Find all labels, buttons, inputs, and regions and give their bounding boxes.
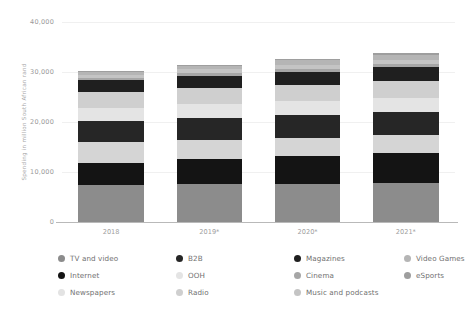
legend-color-dot-icon xyxy=(176,272,183,279)
bar-segment[interactable] xyxy=(78,78,143,81)
bar-segment[interactable] xyxy=(275,65,340,69)
legend-item-label: TV and video xyxy=(70,254,118,263)
bar-segment[interactable] xyxy=(177,159,242,184)
legend-item[interactable]: eSports xyxy=(404,271,471,280)
bar-segment[interactable] xyxy=(373,135,438,153)
bar-segment[interactable] xyxy=(78,71,143,75)
bar-segment[interactable] xyxy=(78,142,143,163)
bar-segment[interactable] xyxy=(78,80,143,92)
legend-color-dot-icon xyxy=(176,255,183,262)
y-axis-tick-label: 10,000 xyxy=(30,168,54,176)
legend-color-dot-icon xyxy=(176,289,183,296)
legend-item-label: Newspapers xyxy=(70,288,115,297)
legend-color-dot-icon xyxy=(58,289,65,296)
bar-segment[interactable] xyxy=(373,67,438,81)
legend-item-label: Internet xyxy=(70,271,99,280)
y-axis-tick-label: 20,000 xyxy=(30,118,54,126)
legend-item-label: OOH xyxy=(188,271,205,280)
bar-segment[interactable] xyxy=(177,140,242,160)
legend-color-dot-icon xyxy=(294,289,301,296)
legend-color-dot-icon xyxy=(404,272,411,279)
x-axis-tick-label: 2018 xyxy=(62,228,160,236)
stacked-bar-chart: 010,00020,00030,00040,000 Spending in mi… xyxy=(0,0,471,318)
bar-segment[interactable] xyxy=(275,69,340,72)
bar-segment[interactable] xyxy=(78,92,143,108)
bar-segment[interactable] xyxy=(78,108,143,121)
bar-segment[interactable] xyxy=(373,112,438,135)
legend-item-label: Music and podcasts xyxy=(306,288,379,297)
bar-segment[interactable] xyxy=(373,153,438,184)
legend-item[interactable]: Newspapers xyxy=(58,288,176,297)
x-axis-line xyxy=(56,222,458,223)
legend-item-label: Video Games xyxy=(416,254,465,263)
bar-segment[interactable] xyxy=(275,101,340,115)
x-axis-tick-label: 2020* xyxy=(259,228,357,236)
legend-color-dot-icon xyxy=(404,255,411,262)
bar-segment[interactable] xyxy=(78,163,143,186)
bar-segment[interactable] xyxy=(275,60,340,65)
legend-item[interactable]: Music and podcasts xyxy=(294,288,404,297)
bar-segment[interactable] xyxy=(373,53,438,55)
legend-item-label: Magazines xyxy=(306,254,345,263)
bar-segment[interactable] xyxy=(275,85,340,102)
bar-segment[interactable] xyxy=(78,121,143,143)
bar-segment[interactable] xyxy=(373,98,438,113)
legend-item-label: Radio xyxy=(188,288,209,297)
bar-segment[interactable] xyxy=(275,156,340,184)
bar-segment[interactable] xyxy=(78,71,143,72)
legend-item[interactable]: Cinema xyxy=(294,271,404,280)
bar-segment[interactable] xyxy=(275,72,340,85)
bar-stack[interactable] xyxy=(78,22,143,222)
bar-stack[interactable] xyxy=(275,22,340,222)
y-axis-tick-labels: 010,00020,00030,00040,000 xyxy=(0,0,54,318)
bar-segment[interactable] xyxy=(177,69,242,73)
bar-segment[interactable] xyxy=(275,59,340,60)
legend-item-label: B2B xyxy=(188,254,203,263)
bar-segment[interactable] xyxy=(177,65,242,69)
bar-segment[interactable] xyxy=(78,185,143,222)
legend-color-dot-icon xyxy=(294,272,301,279)
bar-segment[interactable] xyxy=(373,64,438,67)
x-axis-tick-label: 2019* xyxy=(160,228,258,236)
bar-segment[interactable] xyxy=(373,55,438,60)
y-axis-title: Spending in million South African rand xyxy=(21,64,27,181)
legend-color-dot-icon xyxy=(294,255,301,262)
bar-stack[interactable] xyxy=(177,22,242,222)
bar-segment[interactable] xyxy=(177,88,242,104)
plot-area xyxy=(62,22,455,222)
legend-item[interactable]: B2B xyxy=(176,254,294,263)
bar-segment[interactable] xyxy=(78,75,143,78)
bar-segment[interactable] xyxy=(177,65,242,66)
bar-segment[interactable] xyxy=(177,76,242,89)
legend-item[interactable]: Video Games xyxy=(404,254,471,263)
bar-segment[interactable] xyxy=(177,184,242,222)
bar-segment[interactable] xyxy=(177,73,242,76)
legend-item[interactable]: Magazines xyxy=(294,254,404,263)
legend-item[interactable]: OOH xyxy=(176,271,294,280)
bar-segment[interactable] xyxy=(373,183,438,222)
y-axis-tick-label: 30,000 xyxy=(30,68,54,76)
bar-segment[interactable] xyxy=(275,115,340,138)
legend-color-dot-icon xyxy=(58,255,65,262)
bar-segment[interactable] xyxy=(177,104,242,118)
bar-segment[interactable] xyxy=(275,138,340,157)
legend-color-dot-icon xyxy=(58,272,65,279)
bar-stack[interactable] xyxy=(373,22,438,222)
bar-segment[interactable] xyxy=(373,81,438,98)
x-axis-tick-label: 2021* xyxy=(357,228,455,236)
bar-segment[interactable] xyxy=(373,60,438,65)
chart-legend: TV and videoB2BMagazinesVideo GamesInter… xyxy=(58,250,458,301)
bar-segment[interactable] xyxy=(177,118,242,140)
legend-item[interactable]: TV and video xyxy=(58,254,176,263)
y-axis-tick-label: 0 xyxy=(50,218,54,226)
y-axis-tick-label: 40,000 xyxy=(30,18,54,26)
legend-item-label: Cinema xyxy=(306,271,334,280)
legend-item[interactable]: Internet xyxy=(58,271,176,280)
bar-segment[interactable] xyxy=(275,184,340,223)
legend-item-label: eSports xyxy=(416,271,444,280)
legend-item[interactable]: Radio xyxy=(176,288,294,297)
